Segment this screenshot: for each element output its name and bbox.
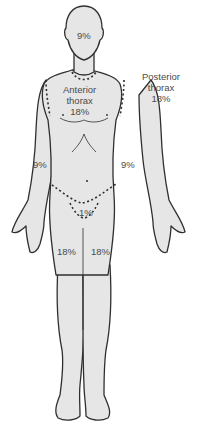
posterior-thorax-line3: 18% — [142, 93, 180, 104]
anterior-thorax-line1: Anterior — [63, 84, 96, 95]
posterior-thorax-line2: thorax — [142, 82, 180, 93]
right-leg-percent-label: 18% — [57, 246, 76, 257]
left-leg-percent-label: 18% — [91, 246, 110, 257]
head-percent-label: 9% — [77, 30, 91, 41]
anterior-thorax-line3: 18% — [63, 106, 96, 117]
right-arm-percent-label: 9% — [33, 159, 47, 170]
navel — [86, 180, 88, 182]
right-leg-shape — [56, 265, 84, 420]
left-leg-shape — [83, 265, 111, 420]
anterior-thorax-line2: thorax — [63, 95, 96, 106]
anterior-thorax-label: Anterior thorax 18% — [63, 84, 96, 117]
left-arm-shape — [139, 80, 185, 253]
posterior-thorax-label: Posterior thorax 18% — [142, 71, 180, 104]
perineum-percent-label: 1% — [79, 207, 93, 218]
left-arm-percent-label: 9% — [121, 159, 135, 170]
body-figure — [0, 0, 197, 435]
posterior-thorax-line1: Posterior — [142, 71, 180, 82]
left-nipple — [106, 114, 108, 116]
